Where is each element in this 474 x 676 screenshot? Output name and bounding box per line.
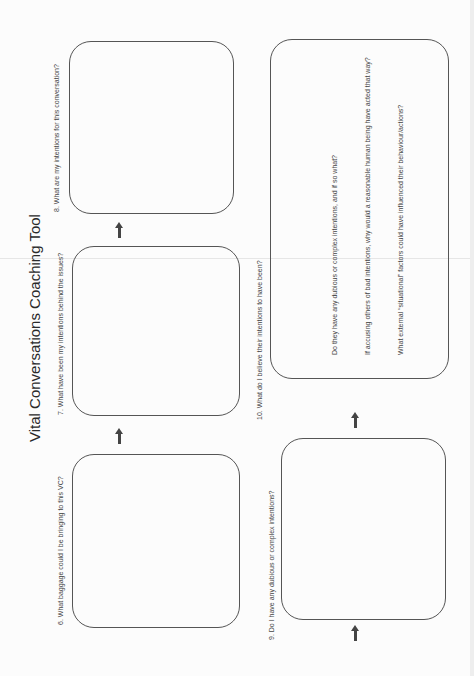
question-8-label: 8. What are my intentions for this conve…	[53, 64, 60, 212]
flow-arrow-up-icon	[116, 222, 122, 238]
question-6-label: 6. What baggage could I be bringing to t…	[57, 476, 64, 625]
answer-box-6[interactable]	[72, 454, 240, 628]
question-9-label: 9. Do I have any dubious or complex inte…	[268, 491, 275, 640]
answer-box-10[interactable]	[270, 39, 449, 379]
flow-arrow-up-icon	[116, 428, 122, 444]
flow-arrow-up-icon	[352, 625, 358, 641]
answer-box-9[interactable]	[281, 438, 446, 620]
paper-edge-shadow	[470, 0, 474, 676]
answer-box-8[interactable]	[69, 41, 234, 214]
flow-arrow-up-icon	[352, 412, 358, 428]
question-10-prompt-2: If accusing others of bad intentions, wh…	[364, 57, 371, 355]
question-10-prompt-3: What external “situational” factors coul…	[397, 105, 404, 355]
question-7-label: 7. What have been my intentions behind t…	[57, 253, 64, 415]
worksheet-page: Vital Conversations Coaching Tool 6. Wha…	[0, 0, 474, 676]
page-title: Vital Conversations Coaching Tool	[26, 214, 43, 442]
answer-box-7[interactable]	[72, 246, 240, 416]
question-10-prompt-1: Do they have any dubious or complex inte…	[331, 155, 338, 355]
question-10-label: 10. What do I believe their intentions t…	[256, 260, 263, 420]
